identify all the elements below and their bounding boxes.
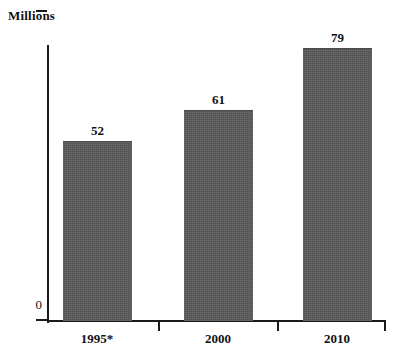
y-axis-title: Millions: [8, 8, 55, 24]
x-axis-label-2000: 2000: [205, 331, 231, 347]
bar-value-label: 79: [331, 30, 344, 46]
x-axis-label-1995: 1995*: [81, 331, 114, 347]
x-tick-mark: [384, 322, 386, 331]
y-tick-label: 10: [29, 0, 42, 4]
x-tick-mark: [277, 322, 279, 331]
bar-chart-figure: Millions 0 10 20 30 40 50 6: [0, 0, 400, 355]
bar-1995[interactable]: 52: [63, 141, 132, 321]
bar-value-label: 52: [91, 123, 104, 139]
y-tick-label: 0: [36, 297, 43, 313]
y-tick-mark: [36, 319, 47, 321]
bar-value-label: 61: [212, 92, 225, 108]
x-tick-mark: [158, 322, 160, 331]
y-tick-mark: [36, 10, 47, 12]
bar-2010[interactable]: 79: [303, 48, 372, 321]
plot-area: 0 10 20 30 40 50 60 70: [47, 46, 386, 321]
x-axis-label-2010: 2010: [324, 331, 350, 347]
bar-2000[interactable]: 61: [184, 110, 253, 321]
